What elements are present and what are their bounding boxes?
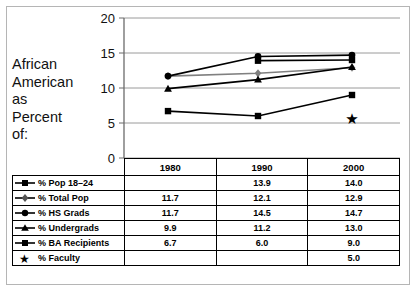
legend-cell: % Pop 18–24 <box>13 176 126 191</box>
legend-label: % BA Recipients <box>38 238 109 248</box>
table-cell: 13.0 <box>308 221 400 236</box>
legend-cell: % Undergrads <box>13 221 126 236</box>
legend-row: % Total Pop <box>13 191 126 206</box>
data-point-triangle <box>348 63 356 70</box>
legend-row: % BA Recipients <box>13 236 126 251</box>
svg-text:★: ★ <box>19 253 30 263</box>
legend-marker-star-icon: ★ <box>15 253 35 263</box>
series-legend: % Pop 18–24% Total Pop% HS Grads% Underg… <box>12 175 125 266</box>
data-point-square <box>349 92 355 98</box>
y-axis-label: 15 <box>101 46 115 61</box>
svg-text:★: ★ <box>345 110 358 128</box>
table-cell: 14.7 <box>308 206 400 221</box>
table-cell: 11.2 <box>216 221 308 236</box>
y-axis-label: 5 <box>108 116 115 131</box>
legend-row: % Undergrads <box>13 221 126 236</box>
data-point-star: ★ <box>345 110 358 128</box>
series-line <box>258 60 352 61</box>
table-cell: 6.7 <box>125 236 217 251</box>
legend-marker-diamond-icon <box>15 193 35 203</box>
legend-label: % Total Pop <box>38 193 89 203</box>
table-row: 6.76.09.0 <box>125 236 400 251</box>
table-row: 11.714.514.7 <box>125 206 400 221</box>
legend-cell: % Total Pop <box>13 191 126 206</box>
data-point-square <box>165 108 171 114</box>
table-header-1980: 1980 <box>125 159 217 176</box>
legend-cell: % HS Grads <box>13 206 126 221</box>
table-row: 11.712.112.9 <box>125 191 400 206</box>
legend-row: ★% Faculty <box>13 251 126 266</box>
legend-marker-square-icon <box>15 238 35 248</box>
table-header-2000: 2000 <box>308 159 400 176</box>
legend-marker-circle-icon <box>15 208 35 218</box>
table-cell: 5.0 <box>308 251 400 266</box>
table-cell: 9.9 <box>125 221 217 236</box>
y-axis-label: 20 <box>101 11 115 26</box>
table-cell: 12.1 <box>216 191 308 206</box>
table-cell <box>125 251 217 266</box>
table-cell: 9.0 <box>308 236 400 251</box>
table-cell: 6.0 <box>216 236 308 251</box>
table-cell: 11.7 <box>125 191 217 206</box>
table-cell <box>125 176 217 191</box>
table-cell: 11.7 <box>125 206 217 221</box>
y-axis-label: 0 <box>108 151 115 166</box>
table-row: 5.0 <box>125 251 400 266</box>
legend-label: % Undergrads <box>38 223 99 233</box>
table-cell: 14.0 <box>308 176 400 191</box>
data-point-circle <box>349 52 356 59</box>
legend-marker-triangle-icon <box>15 223 35 233</box>
data-point-square <box>255 113 261 119</box>
table-header-row: 198019902000 <box>125 159 400 176</box>
y-axis-label: 10 <box>101 81 115 96</box>
data-point-circle <box>255 53 262 60</box>
legend-row: % Pop 18–24 <box>13 176 126 191</box>
table-cell: 14.5 <box>216 206 308 221</box>
table-row: 13.914.0 <box>125 176 400 191</box>
table-cell <box>216 251 308 266</box>
table-cell: 12.9 <box>308 191 400 206</box>
legend-cell: % BA Recipients <box>13 236 126 251</box>
data-point-circle <box>165 73 172 80</box>
legend-label: % Faculty <box>38 253 80 263</box>
legend-cell: ★% Faculty <box>13 251 126 266</box>
data-table: 198019902000 13.914.011.712.112.911.714.… <box>124 158 400 266</box>
legend-label: % Pop 18–24 <box>38 178 93 188</box>
table-header-1990: 1990 <box>216 159 308 176</box>
table-row: 9.911.213.0 <box>125 221 400 236</box>
legend-row: % HS Grads <box>13 206 126 221</box>
legend-label: % HS Grads <box>38 208 90 218</box>
legend-marker-square-icon <box>15 178 35 188</box>
table-cell: 13.9 <box>216 176 308 191</box>
